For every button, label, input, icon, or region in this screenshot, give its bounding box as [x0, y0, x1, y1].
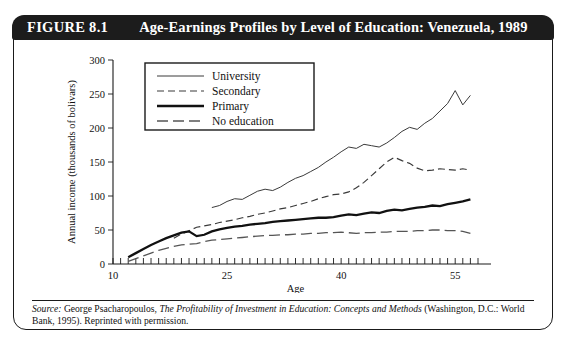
svg-text:Age: Age	[287, 283, 305, 293]
source-divider	[32, 300, 534, 301]
source-note: Source: George Psacharopoulos, The Profi…	[32, 303, 536, 326]
legend-label-primary: Primary	[212, 100, 249, 113]
svg-text:10: 10	[108, 270, 119, 281]
figure-number-label: FIGURE 8.1	[27, 19, 108, 36]
chart-plot-area: 05010015020025030010254055AgeAnnual inco…	[13, 41, 553, 293]
figure-container: FIGURE 8.1 Age-Earnings Profiles by Leve…	[0, 0, 571, 345]
chart-legend: UniversitySecondaryPrimaryNo education	[145, 63, 314, 130]
figure-header-bar: FIGURE 8.1 Age-Earnings Profiles by Leve…	[12, 15, 554, 40]
series-line-primary	[128, 199, 470, 257]
figure-title: Age-Earnings Profiles by Level of Educat…	[139, 19, 527, 36]
svg-text:300: 300	[89, 55, 105, 66]
svg-text:25: 25	[222, 270, 233, 281]
svg-text:Annual income (thousands of bo: Annual income (thousands of bolivars)	[66, 80, 78, 244]
svg-text:0: 0	[100, 259, 105, 270]
svg-text:50: 50	[95, 225, 106, 236]
chart-svg: 05010015020025030010254055AgeAnnual inco…	[13, 41, 553, 293]
legend-label-university: University	[212, 70, 261, 83]
source-author: George Psacharopoulos,	[64, 303, 157, 314]
legend-label-no-education: No education	[212, 115, 274, 127]
series-line-secondary	[174, 157, 471, 238]
svg-text:200: 200	[89, 123, 105, 134]
legend-label-secondary: Secondary	[212, 85, 261, 98]
svg-text:150: 150	[89, 157, 105, 168]
source-work-title: The Profitability of Investment in Educa…	[159, 303, 421, 314]
svg-text:40: 40	[336, 270, 347, 281]
svg-text:55: 55	[450, 270, 461, 281]
svg-text:100: 100	[89, 191, 105, 202]
source-prefix: Source:	[32, 303, 61, 314]
svg-text:250: 250	[89, 89, 105, 100]
